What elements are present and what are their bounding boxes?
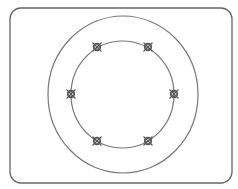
circle-x-icon [144,137,153,146]
circle-x-icon [93,137,102,146]
circle-x-icon [93,43,102,52]
circle-x-icon [144,43,153,52]
circle-x-icon [67,90,76,99]
inner-circle [71,41,174,148]
diagram-canvas [0,0,238,189]
circle-x-icon [170,90,179,99]
frame-border [10,8,232,183]
